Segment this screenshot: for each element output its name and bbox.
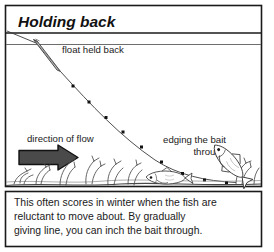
label-direction-of-flow: direction of flow [27,133,94,144]
holding-back-figure: Holding back float held back direction o… [0,0,274,252]
caption-line-3: giving line, you can inch the bait throu… [14,225,202,236]
caption-line-1: This often scores in winter when the fis… [14,197,217,208]
label-edging-the-bait: edging the bait [163,134,226,145]
label-float-held-back: float held back [62,44,124,55]
figure-title: Holding back [18,13,117,30]
caption-line-2: reluctant to move about. By gradually [14,211,186,222]
